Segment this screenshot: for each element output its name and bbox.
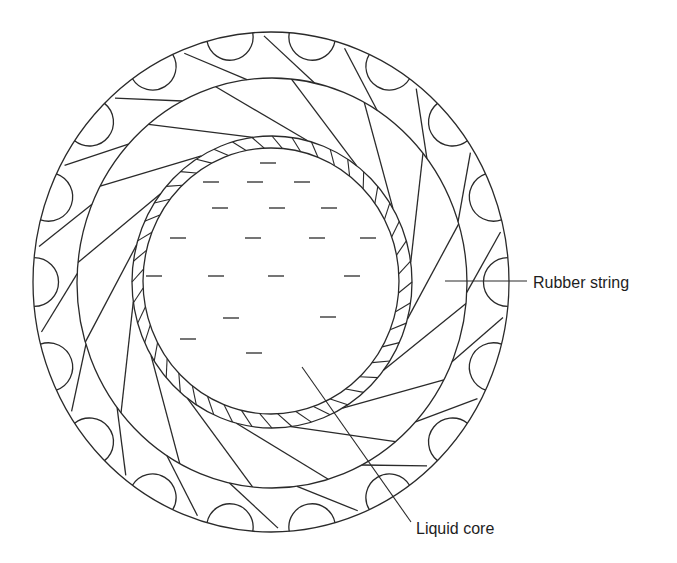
cover-bump: [289, 504, 335, 531]
cover-connector: [65, 144, 129, 165]
cover-connector: [184, 53, 247, 79]
cover-bump: [132, 54, 176, 90]
cover-bump: [469, 174, 501, 221]
cover-connector: [39, 204, 92, 246]
rubber-strand: [149, 124, 254, 137]
cover-bump: [75, 418, 114, 461]
rubber-string-label: Rubber string: [533, 274, 629, 291]
shell-hatch: [375, 186, 378, 203]
shell-hatch: [166, 359, 167, 378]
liquid-fill-marks: [146, 163, 376, 353]
shell-hatch: [398, 282, 412, 293]
rubber-strand: [85, 245, 136, 342]
cover-connector: [229, 483, 278, 528]
cover-connector: [72, 344, 86, 411]
cover-bump: [483, 258, 507, 307]
outer-cover-boundary: [33, 32, 509, 532]
rubber-strand: [343, 380, 444, 408]
cover-bump: [366, 474, 410, 510]
rubber-strand: [78, 194, 161, 263]
shell-hatch: [272, 136, 283, 149]
golf-ball-cross-section-diagram: Rubber string Liquid core: [0, 0, 677, 563]
cover-bump: [289, 33, 335, 60]
cover-bump: [469, 343, 501, 390]
cover-connector: [297, 486, 358, 510]
cover-connector: [458, 153, 470, 222]
rubber-strand: [407, 224, 458, 319]
shell-hatch: [397, 241, 407, 255]
cover-bump: [207, 504, 253, 531]
shell-hatch: [259, 413, 272, 428]
cover-bump: [366, 54, 410, 90]
shell-hatch: [145, 325, 151, 342]
shell-hatch: [132, 269, 144, 282]
shell-hatch: [278, 414, 292, 427]
shell-hatch: [180, 172, 196, 173]
cover-bump: [40, 343, 72, 390]
cover-bump: [429, 103, 468, 146]
cover-bump: [132, 474, 176, 510]
rubber-winding-boundary: [77, 78, 467, 488]
shell-hatch: [348, 159, 350, 176]
shell-hatch: [296, 411, 312, 422]
shell-hatch: [330, 399, 347, 405]
shell-hatch: [372, 361, 390, 363]
shell-hatch: [179, 373, 180, 392]
cover-bump: [207, 33, 253, 60]
rubber-strand: [291, 79, 356, 166]
shell-hatch: [313, 406, 330, 414]
cover-bump: [40, 174, 72, 221]
core-shell-hatching: [132, 136, 412, 428]
rubber-strand: [291, 427, 396, 442]
core-shell-boundary: [132, 136, 412, 428]
shell-hatch: [363, 172, 364, 189]
shell-hatch: [399, 261, 411, 274]
cover-connector: [115, 98, 182, 101]
cover-bump: [429, 418, 468, 461]
shell-hatch: [233, 142, 247, 151]
rubber-strand: [121, 302, 133, 413]
rubber-winding-strands: [78, 79, 466, 487]
cover-connector: [416, 89, 427, 159]
liquid-core-boundary: [143, 148, 399, 414]
shell-hatch: [384, 203, 389, 219]
shell-hatch: [252, 137, 264, 148]
shell-hatch: [166, 185, 182, 186]
shell-hatch: [133, 288, 143, 303]
rubber-strand: [236, 423, 328, 479]
shell-hatch: [214, 149, 229, 155]
shell-hatch: [396, 303, 411, 312]
rubber-strand: [216, 87, 308, 141]
shell-hatch: [154, 343, 157, 361]
cover-bump: [34, 258, 58, 307]
outer-cover-pattern: [34, 33, 508, 532]
liquid-core-leader-line: [302, 367, 411, 522]
shell-hatch: [346, 389, 364, 392]
shell-hatch: [138, 307, 146, 323]
cover-bump: [75, 103, 114, 146]
shell-hatch: [360, 377, 378, 378]
shell-hatch: [392, 221, 400, 236]
liquid-core-label: Liquid core: [416, 520, 494, 537]
rubber-strand: [411, 153, 423, 262]
shell-hatch: [196, 159, 211, 163]
